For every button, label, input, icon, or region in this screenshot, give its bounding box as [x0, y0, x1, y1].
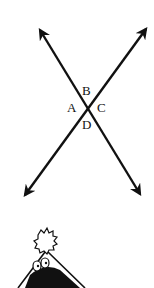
intersecting-lines-diagram [0, 0, 154, 288]
pompom-icon [34, 228, 57, 254]
line-2 [25, 29, 146, 195]
angle-label-a: A [67, 101, 76, 114]
angle-label-c: C [97, 101, 106, 114]
angle-label-b: B [82, 84, 91, 97]
line-1 [40, 30, 140, 194]
angle-label-d: D [82, 118, 91, 131]
hat-band [25, 267, 80, 288]
party-hat-character [18, 228, 85, 288]
